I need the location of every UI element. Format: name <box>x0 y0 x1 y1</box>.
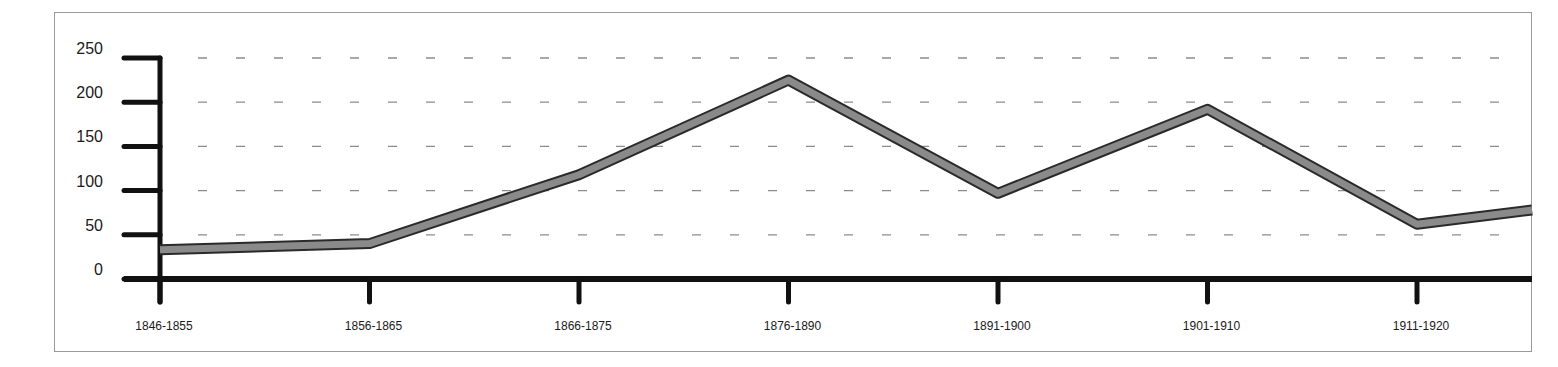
y-tick-label: 0 <box>94 261 103 278</box>
x-tick-labels: 1846-18551856-18651866-18751876-18901891… <box>135 319 1449 333</box>
y-tick-label: 100 <box>76 173 103 190</box>
y-tick-label: 150 <box>76 128 103 145</box>
y-axis <box>124 58 160 302</box>
x-tick-label: 1911-1920 <box>1393 319 1450 333</box>
x-tick-label: 1866-1875 <box>554 319 612 333</box>
x-tick-label: 1876-1890 <box>764 319 822 333</box>
y-tick-label: 250 <box>76 40 103 57</box>
line-chart: 050100150200250 1846-18551856-18651866-1… <box>0 0 1558 367</box>
x-tick-label: 1891-1900 <box>973 319 1031 333</box>
series-line-outline <box>160 80 1532 250</box>
x-tick-label: 1846-1855 <box>135 319 193 333</box>
x-tick-label: 1856-1865 <box>345 319 403 333</box>
y-tick-labels: 050100150200250 <box>76 40 103 278</box>
x-axis <box>124 279 1532 302</box>
y-tick-label: 50 <box>85 217 103 234</box>
data-series <box>160 80 1532 250</box>
gridlines <box>198 58 1510 235</box>
y-tick-label: 200 <box>76 84 103 101</box>
x-tick-label: 1901-1910 <box>1183 319 1241 333</box>
